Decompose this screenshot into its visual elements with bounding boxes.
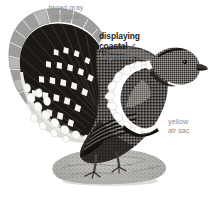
title-coastal-text: coastal — [99, 41, 128, 51]
illustration-plate: broad gray tail band yellow air sac disp… — [0, 0, 212, 201]
tail-black-field — [20, 23, 101, 140]
annotation-yellow-air-sac: yellow air sac — [168, 118, 210, 135]
title-line-coastal: coastal ♂ — [99, 42, 159, 52]
plate-title-block: displaying coastal ♂ fuliginosus — [99, 32, 159, 61]
subspecies-name: fuliginosus — [99, 52, 159, 61]
annotation-broad-gray-tail-band: broad gray tail band — [36, 4, 96, 21]
male-symbol-icon: ♂ — [130, 41, 137, 51]
tail-fan — [9, 8, 104, 144]
